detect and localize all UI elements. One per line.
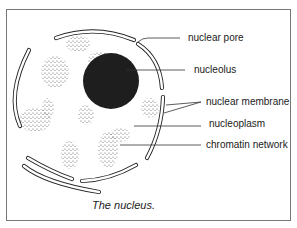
label-nucleolus: nucleolus bbox=[194, 64, 236, 75]
chromatin-network bbox=[19, 36, 159, 169]
label-nuclear-pore: nuclear pore bbox=[188, 32, 244, 43]
label-nuclear-membrane: nuclear membrane bbox=[206, 96, 289, 107]
nucleolus bbox=[83, 53, 139, 109]
label-nucleoplasm: nucleoplasm bbox=[209, 118, 265, 129]
nucleus-illustration bbox=[0, 0, 297, 228]
label-chromatin-network: chromatin network bbox=[206, 139, 288, 150]
figure-caption: The nucleus. bbox=[92, 199, 155, 211]
